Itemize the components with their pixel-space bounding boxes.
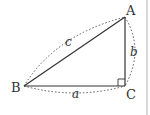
vertex-label-b: B [11, 80, 21, 95]
vertex-label-a: A [125, 3, 136, 18]
side-label-c: c [65, 35, 72, 49]
side-label-b: b [130, 45, 138, 59]
side-label-a: a [72, 87, 79, 101]
right-triangle-diagram: A B C c b a [0, 0, 150, 115]
side-c-hypotenuse [24, 17, 125, 86]
right-angle-marker [118, 79, 125, 86]
vertex-label-c: C [126, 87, 136, 102]
